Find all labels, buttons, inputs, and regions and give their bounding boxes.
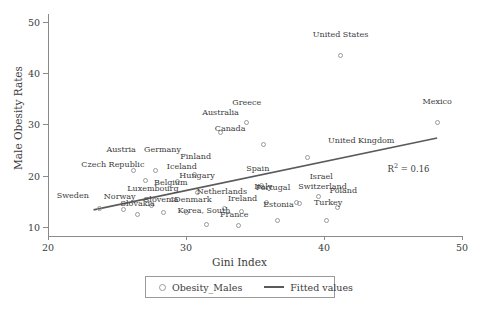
y-tick-label: 50 bbox=[22, 16, 40, 27]
chart-legend: Obesity_Males Fitted values bbox=[145, 276, 335, 298]
x-tick-mark bbox=[186, 236, 187, 240]
x-tick-label: 20 bbox=[42, 242, 54, 253]
x-tick-mark bbox=[462, 236, 463, 240]
data-point-label: Belgium bbox=[154, 178, 188, 187]
y-tick-mark bbox=[43, 176, 48, 177]
data-point-label: Norway bbox=[104, 192, 136, 201]
r2-value: = 0.16 bbox=[398, 164, 429, 174]
data-point bbox=[259, 183, 264, 188]
data-point-label: Netherlands bbox=[197, 187, 247, 196]
data-point-label: Portugal bbox=[256, 183, 291, 192]
data-point-label: Czech Republic bbox=[81, 160, 144, 169]
data-point-label: France bbox=[220, 210, 249, 219]
data-point bbox=[175, 179, 180, 184]
data-point-label: Sweden bbox=[57, 191, 89, 200]
y-tick-label: 20 bbox=[22, 170, 40, 181]
data-point bbox=[236, 223, 241, 228]
data-point bbox=[135, 212, 140, 217]
data-point bbox=[335, 205, 340, 210]
data-point-label: Iceland bbox=[167, 162, 197, 171]
data-point-label: Turkey bbox=[314, 198, 342, 207]
data-point bbox=[297, 201, 302, 206]
data-point-label: Luxembourg bbox=[127, 184, 178, 193]
data-point bbox=[121, 207, 126, 212]
y-tick-mark bbox=[43, 73, 48, 74]
y-tick-label: 10 bbox=[22, 221, 40, 232]
legend-entry-obesity-males: Obesity_Males bbox=[159, 282, 242, 293]
data-point bbox=[435, 120, 440, 125]
y-tick-mark bbox=[43, 22, 48, 23]
y-axis-title: Male Obesity Rates bbox=[12, 48, 24, 188]
legend-entry-fitted-values: Fitted values bbox=[264, 282, 353, 293]
data-point-label: Canada bbox=[215, 124, 246, 133]
data-point-label: Korea, South bbox=[178, 206, 231, 215]
data-point-label: Spain bbox=[246, 164, 269, 173]
data-point bbox=[324, 218, 329, 223]
data-point-label: Hungary bbox=[179, 171, 215, 180]
data-point bbox=[244, 120, 249, 125]
x-axis-title: Gini Index bbox=[0, 256, 479, 268]
data-point-label: Germany bbox=[144, 145, 181, 154]
data-point-label: Denmark bbox=[174, 195, 211, 204]
open-circle-icon bbox=[159, 284, 166, 291]
data-point bbox=[218, 130, 223, 135]
legend-label-obesity-males: Obesity_Males bbox=[172, 282, 242, 293]
scatter-chart: 203040501020304050 United StatesMexicoGr… bbox=[0, 0, 479, 309]
data-point bbox=[184, 210, 189, 215]
data-point-label: Ireland bbox=[228, 194, 257, 203]
data-point-label: Poland bbox=[330, 186, 357, 195]
y-tick-mark bbox=[43, 124, 48, 125]
y-tick-label: 30 bbox=[22, 119, 40, 130]
x-tick-label: 30 bbox=[180, 242, 192, 253]
y-tick-label: 40 bbox=[22, 67, 40, 78]
legend-label-fitted-values: Fitted values bbox=[290, 282, 353, 293]
data-point bbox=[161, 210, 166, 215]
data-point bbox=[264, 200, 269, 205]
data-point-label: Switzerland bbox=[298, 182, 346, 191]
data-point bbox=[149, 203, 154, 208]
data-point bbox=[170, 197, 175, 202]
data-point bbox=[338, 53, 343, 58]
x-tick-mark bbox=[324, 236, 325, 240]
data-point-label: Finland bbox=[180, 152, 211, 161]
data-point-label: Greece bbox=[232, 98, 261, 107]
x-tick-label: 50 bbox=[456, 242, 468, 253]
x-tick-label: 40 bbox=[318, 242, 330, 253]
data-point bbox=[275, 218, 280, 223]
data-point bbox=[294, 200, 299, 205]
data-point-label: Mexico bbox=[423, 97, 452, 106]
data-point bbox=[143, 178, 148, 183]
data-point bbox=[305, 155, 310, 160]
data-point bbox=[239, 209, 244, 214]
data-point bbox=[153, 168, 158, 173]
data-point-label: United States bbox=[313, 30, 369, 39]
data-point bbox=[131, 168, 136, 173]
x-tick-mark bbox=[48, 236, 49, 240]
data-point-label: Israel bbox=[310, 172, 333, 181]
line-swatch-icon bbox=[264, 286, 284, 288]
r-squared-annotation: R2 = 0.16 bbox=[387, 162, 429, 174]
data-point-label: Australia bbox=[202, 108, 239, 117]
data-point bbox=[222, 206, 227, 211]
data-point bbox=[192, 172, 197, 177]
data-point bbox=[316, 194, 321, 199]
data-point-label: Austria bbox=[106, 145, 135, 154]
data-point-label: Estonia bbox=[263, 200, 293, 209]
data-point bbox=[204, 222, 209, 227]
data-point-label: Slovenia bbox=[144, 195, 179, 204]
data-point-label: Slovakia bbox=[121, 199, 155, 208]
data-point bbox=[195, 190, 200, 195]
data-point-label: United Kingdom bbox=[328, 136, 394, 145]
x-axis-line bbox=[48, 236, 462, 237]
y-tick-mark bbox=[43, 227, 48, 228]
data-point bbox=[261, 142, 266, 147]
data-point bbox=[97, 206, 102, 211]
y-axis-line bbox=[48, 14, 49, 236]
data-point-label: Italy bbox=[254, 182, 272, 191]
